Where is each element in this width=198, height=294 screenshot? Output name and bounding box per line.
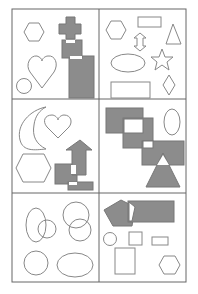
panel-middle-right (106, 108, 184, 187)
circle-icon (63, 202, 89, 228)
rectangle-icon (152, 237, 168, 245)
panel-top-left (17, 17, 95, 98)
overlap-highlight (71, 165, 76, 174)
crescent-icon (19, 107, 46, 150)
hexagon-icon (159, 256, 180, 274)
diamond-icon (163, 75, 175, 95)
ellipse-icon (111, 54, 145, 72)
hexagon-icon (24, 23, 44, 41)
rectangle-icon (69, 56, 94, 98)
overlap-highlight (66, 40, 75, 43)
heart-icon (45, 115, 72, 138)
double-arrow-icon (134, 33, 146, 51)
cross-icon (59, 17, 81, 39)
circle-icon (69, 219, 91, 241)
circle-icon (17, 79, 32, 94)
figure-canvas (0, 0, 198, 294)
circle-icon (24, 251, 48, 275)
square-icon (129, 232, 142, 245)
overlap-highlight (143, 141, 153, 148)
ellipse-icon (57, 253, 93, 277)
circle-icon (104, 233, 117, 246)
panel-middle-left (16, 107, 93, 190)
circle-icon (38, 220, 56, 238)
rectangle-icon (128, 201, 174, 222)
panel-bottom-right (104, 200, 181, 274)
heart-icon (28, 56, 56, 88)
rectangle-icon (138, 17, 161, 27)
overlap-highlight (69, 182, 77, 185)
panel-bottom-left (24, 202, 93, 277)
hexagon-icon (16, 154, 51, 182)
shape-puzzle-figure (0, 0, 198, 294)
rectangle-icon (115, 248, 135, 274)
overlap-highlight (124, 119, 143, 133)
triangle-icon (166, 24, 181, 44)
overlap-highlight (70, 56, 82, 59)
panel-top-right (106, 17, 181, 98)
star-icon (151, 49, 173, 70)
hexagon-icon (106, 21, 126, 39)
rectangle-icon (111, 82, 150, 98)
ellipse-icon (164, 109, 180, 135)
